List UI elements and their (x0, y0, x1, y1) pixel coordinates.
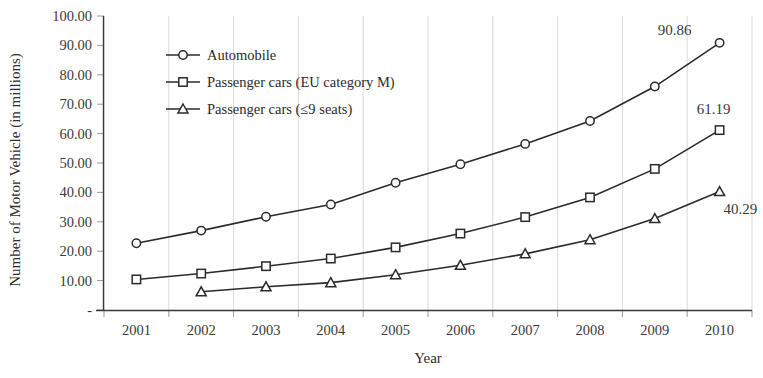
y-tick-label: 50.00 (59, 155, 92, 171)
x-tick-label: 2007 (511, 322, 540, 338)
x-axis-title: Year (414, 350, 442, 366)
y-tick-label: 80.00 (59, 67, 92, 83)
data-label-triangle: 40.29 (724, 201, 758, 217)
y-tick-label: 40.00 (59, 184, 92, 200)
x-tick-label: 2010 (705, 322, 734, 338)
x-tick-label: 2003 (252, 322, 281, 338)
line-chart: 100.0090.0080.0070.0060.0050.0040.0030.0… (0, 0, 763, 378)
chart-container: 100.0090.0080.0070.0060.0050.0040.0030.0… (0, 0, 763, 378)
marker-square (651, 165, 659, 173)
y-tick-label: 10.00 (59, 273, 92, 289)
marker-square (327, 254, 335, 262)
legend-label: Passenger cars (≤9 seats) (207, 101, 352, 118)
marker-square (521, 213, 529, 221)
y-axis-title: Number of Motor Vehicle (in millions) (7, 53, 24, 286)
y-tick-label: - (87, 302, 92, 318)
x-tick-label: 2008 (576, 322, 605, 338)
marker-square (262, 262, 270, 270)
marker-circle (197, 226, 205, 234)
y-tick-label: 20.00 (59, 243, 92, 259)
marker-circle (179, 51, 187, 59)
marker-circle (586, 117, 594, 125)
y-tick-label: 90.00 (59, 37, 92, 53)
legend-label: Automobile (207, 47, 276, 63)
marker-square (586, 193, 594, 201)
x-tick-label: 2006 (446, 322, 475, 338)
x-tick-label: 2001 (122, 322, 151, 338)
x-tick-label: 2002 (187, 322, 216, 338)
legend-label: Passenger cars (EU category M) (207, 74, 395, 91)
x-tick-label: 2009 (640, 322, 669, 338)
marker-circle (391, 178, 399, 186)
y-tick-label: 30.00 (59, 214, 92, 230)
marker-circle (262, 213, 270, 221)
marker-circle (456, 160, 464, 168)
data-label-circle: 90.86 (658, 22, 692, 38)
marker-square (179, 78, 187, 86)
x-tick-label: 2004 (316, 322, 346, 338)
y-tick-label: 70.00 (59, 96, 92, 112)
marker-square (132, 275, 140, 283)
marker-square (197, 269, 205, 277)
x-tick-label: 2005 (381, 322, 410, 338)
y-tick-label: 60.00 (59, 126, 92, 142)
marker-circle (132, 239, 140, 247)
marker-circle (521, 140, 529, 148)
marker-square (456, 229, 464, 237)
data-label-square: 61.19 (697, 101, 731, 117)
marker-square (715, 126, 723, 134)
marker-circle (715, 39, 723, 47)
marker-circle (327, 200, 335, 208)
marker-circle (651, 82, 659, 90)
y-tick-label: 100.00 (52, 8, 92, 24)
marker-square (391, 243, 399, 251)
